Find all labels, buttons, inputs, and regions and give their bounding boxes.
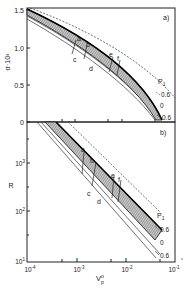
- curve-label-e: e: [109, 51, 113, 58]
- panel-b-xtick-1e-2: 10-2: [121, 265, 133, 273]
- curve-label-f: f: [117, 55, 119, 62]
- panel-a-ytick-1.0: 1.0: [14, 45, 24, 52]
- panel-a: 1.5 1.0 0.5 0 σ·10³ a b c d: [4, 7, 175, 126]
- panel-b-curve-label-a: a: [81, 146, 85, 153]
- panel-b-p-leader-3: [155, 251, 159, 255]
- panel-a-p-value-3: 0.6: [162, 114, 171, 121]
- panel-b-curve-label-f: f: [118, 176, 120, 183]
- panel-b-ytick-1e1: 101: [15, 257, 25, 265]
- stray-dot: [181, 258, 182, 259]
- panel-b-ytick-1e2: 102: [15, 207, 25, 215]
- panel-b-curve-label-d: d: [97, 198, 101, 205]
- curve-label-d: d: [89, 65, 93, 72]
- panel-b-curve-label-b: b: [90, 157, 94, 164]
- panel-b-curve-p0: [56, 122, 162, 230]
- panel-b-xtick-1e-1: 10-1: [168, 265, 180, 273]
- panel-b-xtick-1e-4: 10-4: [24, 265, 36, 273]
- panel-b-p-label: P1: [157, 212, 165, 221]
- curve-label-c: c: [73, 56, 77, 63]
- panel-a-band: [27, 9, 162, 120]
- panel-a-ylabel: σ·10³: [4, 53, 11, 70]
- panel-b-band: [45, 122, 162, 240]
- panel-b-curve-label-c: c: [87, 190, 91, 197]
- panel-b-frame: [27, 122, 175, 262]
- panel-a-p-leader-1: [156, 92, 160, 95]
- panel-b-curve-label-e: e: [111, 172, 115, 179]
- panel-b-tag: b): [160, 129, 166, 137]
- panel-b-curve-lower: [37, 122, 156, 258]
- panel-b-p-value-3: 0.6: [160, 252, 169, 259]
- panel-b-xlabel: Vop: [96, 273, 104, 285]
- panel-a-ytick-0: 0: [20, 119, 24, 126]
- panel-a-tag: a): [163, 14, 169, 22]
- panel-a-p-label: P1: [158, 78, 166, 87]
- panel-a-p-value-1: 0.6: [161, 91, 170, 98]
- panel-b-curve-lower2: [41, 122, 160, 254]
- panel-a-ytick-1.5: 1.5: [14, 7, 24, 14]
- curve-label-a: a: [77, 35, 81, 42]
- panel-b: 103 102 101 R 10-4 10-3 10-2 10-1 Vop: [8, 122, 180, 285]
- panel-a-p-value-2: 0: [160, 102, 164, 109]
- panel-b-x-ticks: [62, 258, 160, 262]
- curve-label-b: b: [86, 41, 90, 48]
- panel-b-p-value-1: 0.6: [160, 226, 169, 233]
- panel-b-ytick-1e3: 103: [15, 159, 25, 167]
- panel-b-xtick-1e-3: 10-3: [73, 265, 85, 273]
- panel-a-ytick-0.5: 0.5: [14, 82, 24, 89]
- panel-b-ylabel: R: [8, 182, 13, 189]
- panel-b-p-value-2: 0: [160, 239, 164, 246]
- figure: 1.5 1.0 0.5 0 σ·10³ a b c d: [0, 0, 189, 290]
